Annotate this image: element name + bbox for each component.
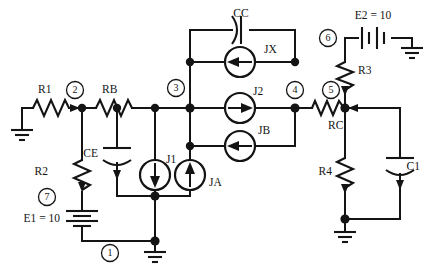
wire-e1-to-node1-bus [82, 228, 155, 241]
node-label-7: 7 [45, 191, 50, 202]
wire-c1-bottom-lead [345, 174, 400, 219]
junction-dot-node3 [185, 103, 194, 112]
label-j1: J1 [166, 153, 176, 165]
arrow-c1-direction [396, 180, 404, 190]
label-rb: RB [102, 83, 118, 95]
resistor-r3-symbol [337, 62, 353, 90]
junction-dot-node1 [150, 236, 159, 245]
schematic-canvas: 1 2 3 4 5 6 7 R1 RB R2 R3 R [0, 0, 428, 279]
arrow-r4-direction [341, 184, 349, 194]
label-ce: CE [83, 147, 98, 159]
node-label-3: 3 [174, 82, 179, 93]
junction-dot-j1-top [151, 104, 159, 112]
arrow-ce-direction [113, 170, 121, 180]
junction-dot-jx-right [291, 58, 299, 66]
ground-layer [11, 48, 423, 262]
wire-ja-bottom-lead [155, 190, 190, 196]
junction-dot-bottom-right [340, 214, 349, 223]
junction-dot-jb-left [186, 142, 194, 150]
junction-dot-node2 [78, 104, 86, 112]
resistor-r1-symbol [33, 100, 69, 116]
node-label-5: 5 [329, 84, 334, 95]
label-jb: JB [258, 124, 270, 136]
ground-bottom-right [334, 232, 356, 242]
node-label-2: 2 [73, 84, 78, 95]
label-c1: C1 [407, 160, 421, 172]
junction-dot-layer [78, 58, 350, 246]
circuit-diagram: 1 2 3 4 5 6 7 R1 RB R2 R3 R [0, 0, 428, 279]
label-rc: RC [328, 119, 344, 131]
label-r1: R1 [38, 83, 52, 95]
wire-c1-top-lead [345, 108, 400, 158]
junction-dot-ce-top [113, 104, 121, 112]
ground-left [11, 130, 33, 140]
node-bubble-3: 3 [168, 80, 185, 97]
node-label-4: 4 [293, 84, 298, 95]
arrow-r2-direction [78, 182, 86, 192]
node-bubble-1: 1 [102, 245, 119, 262]
label-r3: R3 [358, 64, 372, 76]
label-e2: E2 = 10 [355, 9, 392, 21]
junction-dot-jx-left [186, 58, 194, 66]
label-jx: JX [264, 43, 277, 55]
node-label-1: 1 [108, 247, 113, 258]
label-r4: R4 [319, 165, 333, 177]
arrow-r3-direction [341, 86, 349, 96]
resistor-r4-symbol [337, 158, 353, 188]
resistor-rc-symbol [312, 101, 344, 115]
wire-e2-to-gnd [392, 38, 412, 48]
node-label-6: 6 [326, 32, 331, 43]
label-cc: CC [233, 7, 249, 19]
current-source-layer [140, 47, 255, 190]
ground-top-right [401, 48, 423, 58]
wire-layer [22, 30, 412, 252]
node-bubble-2: 2 [67, 82, 84, 99]
node-bubble-4: 4 [287, 82, 304, 99]
junction-dot-node5 [340, 103, 349, 112]
label-r2: R2 [35, 165, 49, 177]
node-bubble-7: 7 [39, 189, 56, 206]
label-j2: J2 [253, 85, 263, 97]
junction-dot-source-return [150, 191, 159, 200]
ground-bottom-center [144, 252, 166, 262]
node-bubble-6: 6 [320, 30, 337, 47]
junction-dot-node4 [290, 103, 299, 112]
label-ja: JA [209, 176, 222, 188]
node-bubble-5: 5 [323, 82, 340, 99]
label-e1: E1 = 10 [23, 212, 60, 224]
